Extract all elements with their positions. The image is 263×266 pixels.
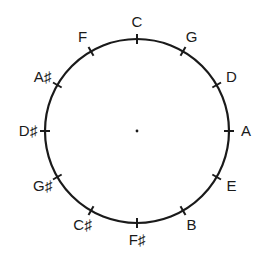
- center-dot: [136, 130, 139, 133]
- note-label: F: [78, 28, 87, 45]
- note-label: B: [186, 216, 196, 233]
- circle-of-fifths-diagram: CGDAEBF♯C♯G♯D♯A♯F: [0, 0, 263, 266]
- note-label: G: [186, 28, 198, 45]
- note-label: C♯: [73, 216, 92, 233]
- note-label: D♯: [19, 122, 38, 139]
- note-label: C: [132, 13, 143, 30]
- note-label: G♯: [33, 177, 53, 194]
- note-label: A♯: [34, 68, 52, 85]
- note-label: E: [226, 177, 236, 194]
- note-label: D: [226, 68, 237, 85]
- note-label: A: [241, 122, 251, 139]
- note-label: F♯: [129, 231, 146, 248]
- note-labels: CGDAEBF♯C♯G♯D♯A♯F: [19, 13, 251, 248]
